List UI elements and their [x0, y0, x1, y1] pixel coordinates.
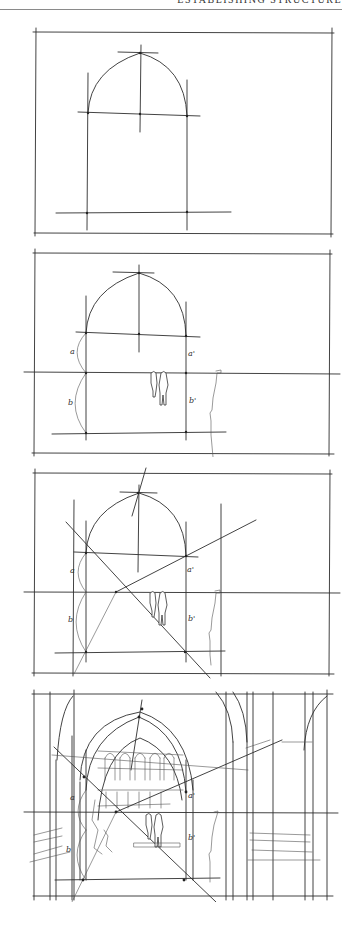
- wall-contour: [210, 370, 221, 457]
- label-b: b: [68, 398, 73, 407]
- label-b-prime: b': [189, 396, 196, 405]
- label-a: a: [70, 566, 75, 575]
- label-a-prime: a': [187, 565, 194, 574]
- label-a-prime: a': [188, 349, 195, 358]
- wall-contour: [209, 811, 218, 882]
- human-figures: [151, 372, 168, 406]
- running-head: ESTABLISHING STRUCTURE: [0, 0, 342, 10]
- arch-construction-step-3: a a' b b': [0, 465, 358, 680]
- sketch-panel-2: a a' b b': [0, 245, 358, 457]
- label-b: b: [66, 845, 71, 854]
- label-b-prime: b': [188, 614, 195, 623]
- label-b-prime: b': [188, 833, 195, 842]
- sketch-panel-4: a a' b b': [0, 686, 358, 902]
- arch-construction-step-4: a a' b b': [0, 686, 358, 902]
- frame: [33, 28, 334, 237]
- sketch-panel-3: a a' b b': [0, 465, 358, 680]
- label-a: a: [70, 347, 75, 356]
- label-b: b: [68, 615, 73, 624]
- human-figures: [150, 592, 167, 626]
- label-a-prime: a': [188, 791, 195, 800]
- label-a: a: [70, 793, 75, 802]
- running-head-title: ESTABLISHING STRUCTURE: [177, 0, 342, 5]
- arch-construction-step-2: a a' b b': [0, 245, 358, 457]
- human-figures: [146, 814, 163, 848]
- arch-construction-step-1: [0, 24, 358, 240]
- foliage: [92, 800, 112, 854]
- wall-contour: [209, 590, 220, 665]
- sketch-panel-1: [0, 24, 358, 240]
- pointed-arch-curve: [88, 53, 187, 116]
